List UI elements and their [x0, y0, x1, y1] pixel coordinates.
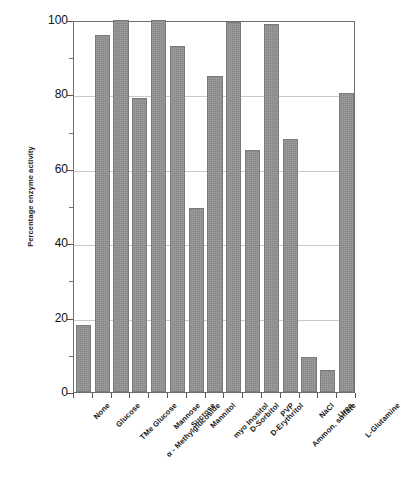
bar [113, 20, 128, 392]
y-axis-tick-label: 20 [8, 312, 68, 324]
bar [264, 24, 279, 392]
bar [170, 46, 185, 392]
bar [132, 98, 147, 392]
x-axis-tick-label: NaCl [317, 401, 336, 420]
x-axis-tick-label: None [92, 401, 112, 421]
bar [320, 370, 335, 392]
y-axis-tick-label: 100 [8, 14, 68, 26]
bar [301, 357, 316, 392]
x-axis-tick-label: L-Glutamine [363, 401, 401, 439]
bar [283, 139, 298, 392]
y-axis-tick-label: 40 [8, 237, 68, 249]
bar [245, 150, 260, 392]
y-axis-tick-label: 60 [8, 163, 68, 175]
bar [189, 208, 204, 392]
x-axis-tick-label: Urea [336, 401, 355, 420]
bar [226, 22, 241, 392]
y-axis-title: Percentage enzyme activity [26, 117, 35, 277]
bar [151, 20, 166, 392]
bar [76, 325, 91, 392]
y-axis-tick-label: 80 [8, 88, 68, 100]
bar [339, 93, 354, 392]
x-axis-tick-label: Glucose [114, 401, 142, 429]
bar [95, 35, 110, 392]
bar [207, 76, 222, 392]
x-axis-labels: NoneGlucoseTMe Glucoseα - Methylglucosid… [0, 393, 373, 479]
plot-area [73, 21, 355, 393]
x-axis-tick-label: TMe Glucose [138, 401, 179, 442]
